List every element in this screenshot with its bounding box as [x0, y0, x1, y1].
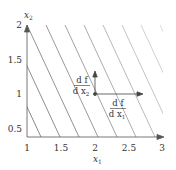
x-tick-labels: 1 1.5 2 2.5 3 [24, 143, 165, 153]
contour-line [84, 25, 136, 137]
contour-diagram: 1 1.5 2 2.5 3 0.5 1 1.5 2 x1 x2 d f d x2… [0, 0, 176, 170]
y-tick-labels: 0.5 1 1.5 2 [8, 20, 23, 134]
y-axis-label: x2 [24, 10, 33, 21]
y-tick: 2 [16, 20, 22, 30]
y-tick: 0.5 [8, 124, 23, 134]
df-dx2-label: d f d x2 [73, 75, 90, 97]
df-dx1-denominator: d x1 [109, 109, 125, 120]
df-dx2-numerator: d f [76, 75, 88, 85]
x-tick: 2 [92, 143, 98, 153]
contour-line [160, 25, 176, 137]
contour-line [122, 25, 174, 137]
x-tick: 2.5 [122, 143, 137, 153]
gradient-point [94, 93, 97, 96]
contour-line [46, 25, 98, 137]
df-dx2-denominator: d x2 [73, 86, 89, 97]
contour-line [65, 25, 117, 137]
df-dx2-arrowhead-icon [93, 71, 97, 77]
x-tick: 3 [159, 143, 165, 153]
contour-line [103, 25, 155, 137]
gradient-arrows [93, 71, 143, 96]
contour-line [141, 25, 176, 137]
x-tick: 1.5 [54, 143, 69, 153]
x-axis-label: x1 [93, 154, 102, 165]
contour-line [27, 25, 79, 137]
x-tick: 1 [24, 143, 30, 153]
axes [25, 25, 165, 140]
y-tick: 1.5 [8, 55, 23, 65]
contour-line [8, 25, 60, 137]
df-dx1-numerator: d f [112, 98, 124, 108]
x-axis-arrowhead-icon [157, 135, 164, 140]
contour-lines [0, 25, 176, 137]
df-dx1-arrowhead-icon [137, 92, 143, 96]
y-tick: 1 [16, 89, 22, 99]
df-dx1-label: d f d x1 [109, 98, 126, 120]
